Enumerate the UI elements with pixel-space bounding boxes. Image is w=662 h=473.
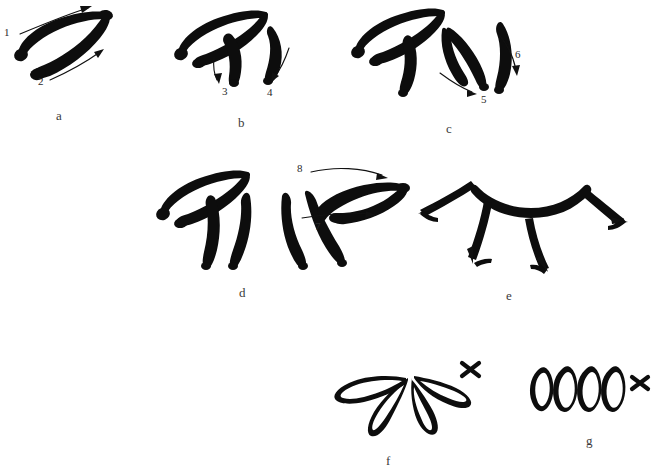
brush-end-d5-tip <box>298 262 308 270</box>
oval-outline-g3 <box>577 366 601 412</box>
brush-end-d4-tip <box>228 262 238 270</box>
panel-f-outline-petals <box>334 363 479 436</box>
oval-outline-g1 <box>530 367 553 411</box>
panel-label-e: e <box>506 289 512 302</box>
ray-e-outer-left <box>420 181 476 216</box>
panel-b-strokes <box>172 10 281 87</box>
panel-e-diagram <box>418 181 628 274</box>
stroke-number-3: 3 <box>222 86 228 97</box>
oval-outline-g2 <box>553 366 577 412</box>
brush-end-d7-right <box>396 183 410 193</box>
stroke-number-2: 2 <box>38 76 44 87</box>
direction-arrow-5-head <box>467 90 477 97</box>
panel-label-c: c <box>446 122 452 135</box>
panel-label-b: b <box>238 116 245 129</box>
direction-arrow-8-head <box>376 173 388 180</box>
panel-label-f: f <box>386 454 390 467</box>
brush-end-c3-tip <box>398 89 408 97</box>
panel-c-strokes <box>349 8 511 97</box>
brush-end-d6-tip <box>337 259 347 267</box>
panel-label-d: d <box>239 286 246 299</box>
stroke-number-1: 1 <box>4 27 10 38</box>
figure-root: 1 2 3 4 5 6 7 8 a b c d e f g <box>0 0 662 473</box>
direction-arrow-3-head <box>214 73 222 84</box>
brush-stroke-d5 <box>281 193 306 269</box>
brush-end-a-right <box>98 9 114 22</box>
cross-mark-g <box>632 377 648 389</box>
panel-a-strokes <box>12 9 114 82</box>
direction-arrow-2-head <box>94 49 104 58</box>
brush-end-d3-tip <box>201 262 211 270</box>
ray-e-inner-right <box>525 218 549 271</box>
brush-stroke-c6 <box>495 22 512 92</box>
brush-end-b3-tip <box>229 79 239 87</box>
stroke-number-6: 6 <box>515 49 521 60</box>
stroke-number-8: 8 <box>297 163 303 174</box>
stroke-number-4: 4 <box>267 87 273 98</box>
ray-e-inner-left-barb <box>474 259 492 267</box>
panel-label-a: a <box>56 109 62 122</box>
figure-canvas <box>0 0 662 473</box>
ray-e-inner-left-head <box>467 246 473 264</box>
petal-outline-f2 <box>368 378 408 436</box>
stroke-number-7: 7 <box>315 221 321 232</box>
brush-end-c5-tip <box>479 83 489 91</box>
brush-end-c6-tip <box>494 86 504 94</box>
panel-label-g: g <box>586 434 593 447</box>
oval-outline-g4 <box>601 366 625 412</box>
direction-arrow-6-head <box>512 65 520 76</box>
brush-stroke-d4 <box>230 193 252 269</box>
direction-arrow-8 <box>311 168 382 175</box>
panel-g-outline-ovals <box>530 366 648 412</box>
cross-mark-f <box>462 363 479 376</box>
stroke-number-5: 5 <box>481 94 487 105</box>
panel-d-strokes <box>154 170 410 270</box>
